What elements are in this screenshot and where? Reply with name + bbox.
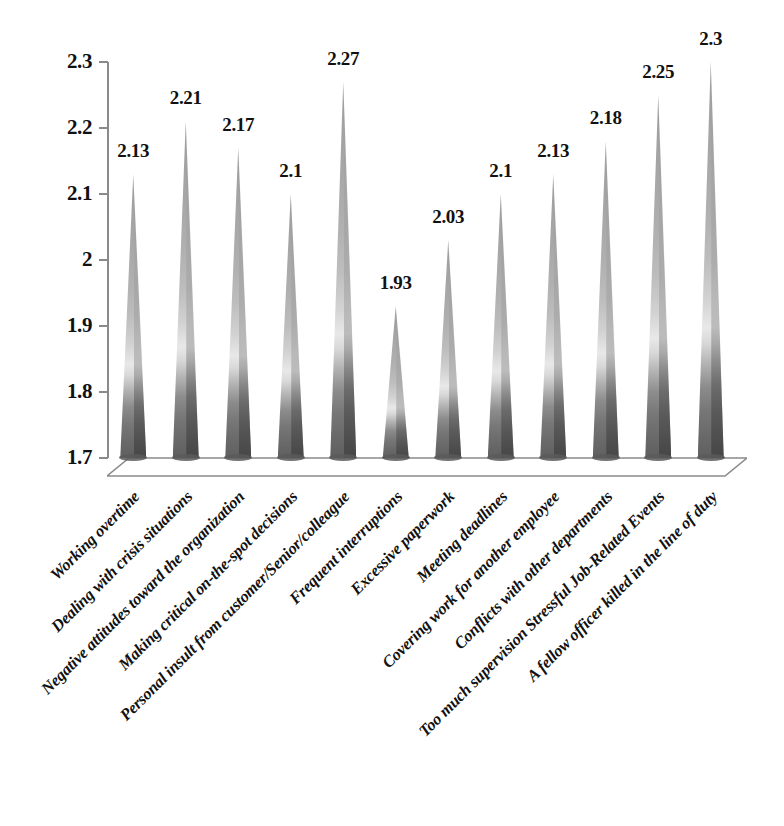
- cone-bar: [120, 174, 146, 458]
- cone-bar: [645, 95, 671, 458]
- cone-shading: [501, 194, 513, 458]
- y-axis-label: 2.1: [46, 183, 92, 204]
- cone-shading: [659, 95, 671, 458]
- cone-base-ellipse: [697, 454, 725, 461]
- data-value-label: 2.13: [537, 141, 569, 160]
- cone-slot: 2.1: [265, 62, 317, 458]
- cone-base-ellipse: [644, 454, 672, 461]
- cone-shading: [711, 62, 723, 458]
- category-axis-label: Dealing with crisis situations: [0, 488, 196, 826]
- cone-slot: 2.3: [685, 62, 737, 458]
- cone-bar: [173, 121, 199, 458]
- cone-base-ellipse: [592, 454, 620, 461]
- cone-slot: 2.13: [527, 62, 579, 458]
- cone-base-ellipse: [434, 454, 462, 461]
- y-axis-label: 2.3: [46, 51, 92, 72]
- chart-floor: [107, 455, 737, 479]
- category-axis-label: Too much supervision Stressful Job-Relat…: [232, 488, 668, 826]
- cone-bar: [225, 148, 251, 458]
- cone-slot: 2.13: [107, 62, 159, 458]
- cone-slot: 1.93: [370, 62, 422, 458]
- cone-shading: [344, 82, 356, 458]
- cone-slot: 2.21: [160, 62, 212, 458]
- data-value-label: 2.03: [432, 207, 464, 226]
- category-axis-label: Personal insult from customer/Senior/col…: [0, 488, 353, 826]
- cone-base-ellipse: [277, 454, 305, 461]
- cone-shading: [396, 306, 408, 458]
- cone-shading: [291, 194, 303, 458]
- data-value-label: 2.17: [222, 115, 254, 134]
- cone-shading: [134, 174, 146, 458]
- cone-slot: 2.18: [580, 62, 632, 458]
- cone-base-ellipse: [119, 454, 147, 461]
- category-axis-label: A fellow officer killed in the line of d…: [285, 488, 721, 826]
- data-value-label: 2.13: [117, 141, 149, 160]
- cone-slot: 2.17: [212, 62, 264, 458]
- data-value-label: 2.25: [642, 62, 674, 81]
- cone-shading: [239, 148, 251, 458]
- cone-base-ellipse: [172, 454, 200, 461]
- category-axis-label: Conflicts with other departments: [180, 488, 616, 826]
- cone-slot: 2.25: [632, 62, 684, 458]
- category-axis-label: Excessive paperwork: [22, 488, 458, 826]
- cone-shading: [449, 240, 461, 458]
- cone-bar: [278, 194, 304, 458]
- data-value-label: 2.18: [590, 108, 622, 127]
- cone-base-ellipse: [487, 454, 515, 461]
- cone-base-ellipse: [382, 454, 410, 461]
- cone-shading: [606, 141, 618, 458]
- cone-base-ellipse: [539, 454, 567, 461]
- category-axis-label: Covering work for another employee: [127, 488, 563, 826]
- category-axis-label: Frequent interruptions: [0, 488, 406, 826]
- data-value-label: 1.93: [380, 273, 412, 292]
- category-axis-label: Making critical on-the-spot decisions: [0, 488, 301, 826]
- data-value-label: 2.21: [170, 88, 202, 107]
- cone-shading: [554, 174, 566, 458]
- cone-slot: 2.03: [422, 62, 474, 458]
- y-axis-label: 1.7: [46, 447, 92, 468]
- y-axis-label: 2.2: [46, 117, 92, 138]
- cone-slot: 2.27: [317, 62, 369, 458]
- cone-chart: 2.32.22.121.91.81.7 2.132.212.172.12.271…: [0, 0, 784, 826]
- plot-area: 2.132.212.172.12.271.932.032.12.132.182.…: [107, 62, 737, 458]
- cone-slot: 2.1: [475, 62, 527, 458]
- category-axis-label: Working overtime: [0, 488, 143, 826]
- data-value-label: 2.1: [279, 161, 302, 180]
- cone-shading: [186, 121, 198, 458]
- cone-bar: [540, 174, 566, 458]
- data-value-label: 2.1: [489, 161, 512, 180]
- y-axis-label: 1.8: [46, 381, 92, 402]
- category-axis-label: Negative attitudes toward the organizati…: [0, 488, 248, 826]
- cone-bar: [383, 306, 409, 458]
- y-axis-label: 1.9: [46, 315, 92, 336]
- cone-bar: [435, 240, 461, 458]
- y-axis-label: 2: [46, 249, 92, 270]
- cone-bar: [330, 82, 356, 458]
- category-axis-label: Meeting deadlines: [75, 488, 511, 826]
- cone-bar: [698, 62, 724, 458]
- data-value-label: 2.27: [327, 49, 359, 68]
- floor-polygon: [107, 458, 747, 476]
- data-value-label: 2.3: [699, 29, 722, 48]
- cone-bar: [593, 141, 619, 458]
- cone-bar: [488, 194, 514, 458]
